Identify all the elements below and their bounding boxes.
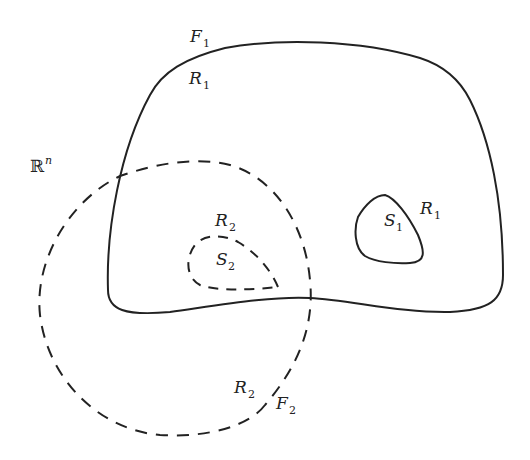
svg-text:S: S bbox=[384, 210, 396, 230]
label-f2: F 2 bbox=[275, 393, 296, 417]
svg-text:R: R bbox=[233, 377, 247, 397]
svg-text:1: 1 bbox=[434, 209, 441, 222]
label-f1: F 1 bbox=[189, 26, 210, 50]
svg-text:R: R bbox=[214, 210, 228, 230]
svg-text:S: S bbox=[216, 249, 228, 269]
label-r2-top: R 2 bbox=[214, 210, 236, 234]
svg-text:1: 1 bbox=[203, 79, 210, 92]
svg-text:ℝ: ℝ bbox=[30, 156, 45, 176]
svg-text:R: R bbox=[188, 68, 202, 88]
svg-text:R: R bbox=[419, 198, 433, 218]
label-s1: S 1 bbox=[384, 210, 403, 234]
label-s2: S 2 bbox=[216, 249, 235, 273]
label-rn: ℝ n bbox=[30, 154, 52, 176]
label-r1-right: R 1 bbox=[419, 198, 441, 222]
svg-text:2: 2 bbox=[289, 404, 296, 417]
diagram-canvas: ℝ n F 1 R 1 R 1 S 1 R 2 S 2 R 2 F 2 bbox=[0, 0, 530, 460]
label-r1-top: R 1 bbox=[188, 68, 210, 92]
svg-text:1: 1 bbox=[203, 37, 210, 50]
svg-text:2: 2 bbox=[229, 221, 236, 234]
svg-text:n: n bbox=[45, 154, 52, 167]
svg-text:2: 2 bbox=[228, 260, 235, 273]
svg-text:F: F bbox=[189, 26, 203, 46]
svg-text:1: 1 bbox=[396, 221, 403, 234]
label-r2-bottom: R 2 bbox=[233, 377, 255, 401]
svg-text:2: 2 bbox=[248, 388, 255, 401]
svg-text:F: F bbox=[275, 393, 289, 413]
region-f1-boundary bbox=[108, 42, 503, 313]
